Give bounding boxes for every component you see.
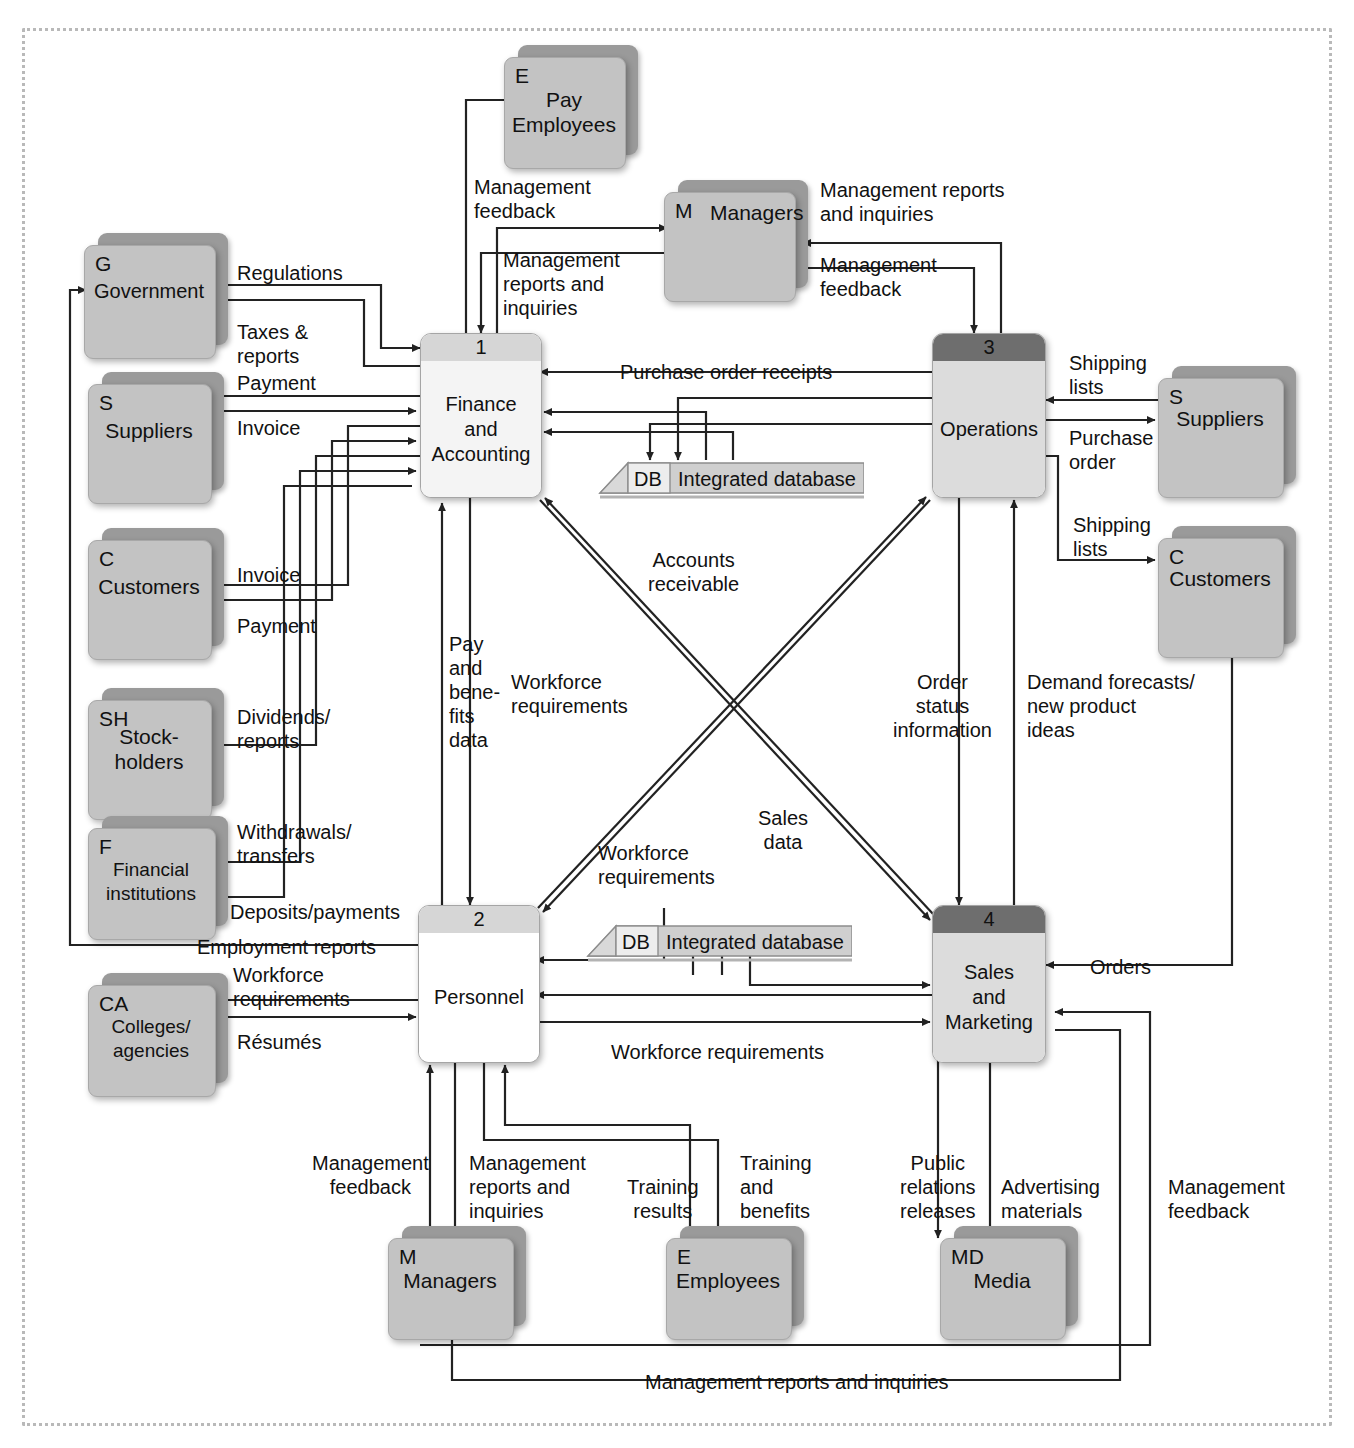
datastore-label: Integrated database [678,467,856,491]
flow-label-management-feedback-pay: Management feedback [474,175,591,223]
entity-label: Media [940,1268,1064,1293]
entity-government[interactable]: G Government [84,245,214,357]
flow-label-management-reports-top: Management reports and inquiries [820,178,1005,226]
entity-label: Stock- holders [88,724,210,774]
entity-code: M [399,1245,417,1269]
datastore-code: DB [622,930,650,954]
datastore-top[interactable]: DB Integrated database [598,457,864,495]
process-sales-and-marketing[interactable]: 4 Sales and Marketing [932,905,1046,1063]
entity-label: Customers [88,574,210,599]
flow-label-management-reports-footer: Management reports and inquiries [645,1370,949,1394]
entity-media[interactable]: MD Media [940,1238,1064,1338]
flow-label-withdrawals-transfers: Withdrawals/ transfers [237,820,351,868]
process-label: Finance and Accounting [421,361,541,497]
entity-employees-bottom[interactable]: E Employees [666,1238,790,1338]
process-label: Sales and Marketing [933,933,1045,1062]
entity-code: F [99,835,112,859]
flow-label-regulations: Regulations [237,261,343,285]
entity-customers-left[interactable]: C Customers [88,540,210,658]
flow-label-employment-reports: Employment reports [197,935,376,959]
process-number: 2 [419,906,539,933]
entity-label: Financial institutions [88,858,214,906]
entity-customers-right[interactable]: C Customers [1158,538,1282,656]
flow-label-management-feedback-bottom: Management feedback [312,1151,429,1199]
datastore-code: DB [634,467,662,491]
process-operations[interactable]: 3 Operations [932,333,1046,498]
entity-suppliers-right[interactable]: S Suppliers [1158,378,1282,496]
flow-label-workforce-requirements-mid: Workforce requirements [598,841,715,889]
entity-financial-institutions[interactable]: F Financial institutions [88,828,214,938]
dfd-canvas: E Pay Employees M Managers G Government … [0,0,1354,1448]
entity-colleges-agencies[interactable]: CA Colleges/ agencies [88,985,214,1095]
entity-corner-mark [1239,453,1284,498]
flow-label-accounts-receivable: Accounts receivable [648,548,739,596]
entity-corner-mark [1239,613,1284,658]
entity-managers-bottom[interactable]: M Managers [388,1238,512,1338]
datastore-label: Integrated database [666,930,844,954]
process-number: 3 [933,334,1045,361]
flow-label-sales-data: Sales data [758,806,808,854]
entity-code: MD [951,1245,984,1269]
process-label: Personnel [419,933,539,1062]
datastore-bottom[interactable]: DB Integrated database [586,920,852,958]
flow-label-shipping-lists-suppliers: Shipping lists [1069,351,1147,399]
flow-label-dividends-reports: Dividends/ reports [237,705,330,753]
process-label: Operations [933,361,1045,497]
flow-label-management-feedback-sales: Management feedback [1168,1175,1285,1223]
flow-label-purchase-order: Purchase order [1069,426,1154,474]
process-number: 4 [933,906,1045,933]
entity-suppliers-left[interactable]: S Suppliers [88,384,210,502]
entity-label: Employees [666,1268,790,1293]
entity-code: E [515,64,529,88]
entity-stockholders[interactable]: SH Stock- holders [88,700,210,818]
flow-label-advertising-materials: Advertising materials [1001,1175,1100,1223]
entity-corner-mark [469,1295,514,1340]
process-number: 1 [421,334,541,361]
flow-label-workforce-requirements-bottom: Workforce requirements [611,1040,824,1064]
entity-code: G [95,252,112,276]
flow-label-orders: Orders [1090,955,1151,979]
process-personnel[interactable]: 2 Personnel [418,905,540,1063]
flow-label-deposits-payments: Deposits/payments [230,900,400,924]
entity-code: S [99,391,113,415]
flow-label-purchase-order-receipts: Purchase order receipts [620,360,832,384]
flow-label-training-results: Training results [627,1175,699,1223]
flow-label-resumes: Résumés [237,1030,321,1054]
flow-label-order-status-information: Order status information [893,670,992,742]
entity-label: Suppliers [1158,406,1282,431]
entity-code: CA [99,992,129,1016]
flow-label-workforce-requirements-ca: Workforce requirements [233,963,350,1011]
entity-corner-mark [747,1295,792,1340]
entity-label: Managers [388,1268,512,1293]
entity-label: Suppliers [88,418,210,443]
entity-corner-mark [167,775,212,820]
entity-label: Managers [704,200,809,225]
flow-label-shipping-lists-customers: Shipping lists [1073,513,1151,561]
flow-label-pay-and-benefits-data: Pay and bene- fits data [449,632,500,752]
flow-label-management-reports-bottom: Management reports and inquiries [469,1151,586,1223]
entity-label: Customers [1158,566,1282,591]
flow-label-payment-customers: Payment [237,614,316,638]
entity-code: C [99,547,114,571]
flow-label-demand-forecasts: Demand forecasts/ new product ideas [1027,670,1195,742]
flow-label-payment-suppliers: Payment [237,371,316,395]
entity-label: Government [84,279,214,304]
flow-label-management-feedback-3: Management feedback [820,253,937,301]
entity-corner-mark [167,459,212,504]
flow-label-training-and-benefits: Training and benefits [740,1151,812,1223]
entity-pay-employees[interactable]: E Pay Employees [504,57,624,167]
entity-corner-mark [167,615,212,660]
entity-code: M [675,199,693,223]
entity-code: E [677,1245,691,1269]
entity-label: Pay Employees [504,87,624,137]
process-finance-and-accounting[interactable]: 1 Finance and Accounting [420,333,542,498]
flow-label-invoice-suppliers: Invoice [237,416,300,440]
flow-label-management-reports-1: Management reports and inquiries [503,248,620,320]
flow-label-public-relations-releases: Public relations releases [900,1151,976,1223]
entity-corner-mark [1021,1295,1066,1340]
flow-label-invoice-customers: Invoice [237,563,300,587]
entity-managers-top[interactable]: M Managers [664,192,794,300]
entity-label: Colleges/ agencies [88,1015,214,1063]
entity-corner-mark [171,314,216,359]
entity-corner-mark [751,257,796,302]
